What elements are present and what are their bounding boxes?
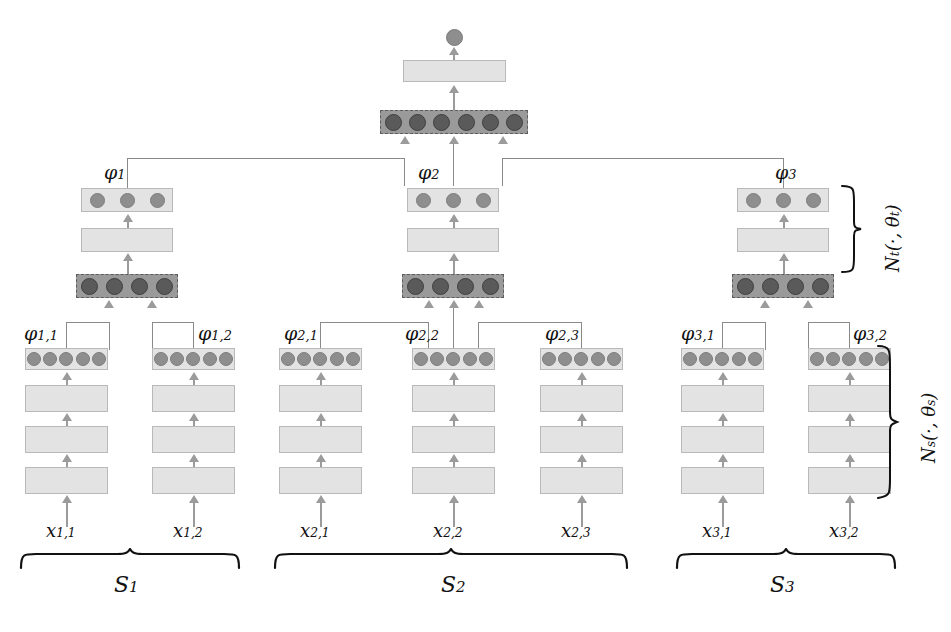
unit-dot bbox=[76, 352, 90, 366]
unit-dot bbox=[812, 278, 829, 295]
phi-sub: 2,3 bbox=[558, 328, 579, 343]
label-phi-1: φ1 bbox=[104, 161, 126, 183]
net-sub: t bbox=[888, 251, 902, 256]
unit-dot bbox=[120, 193, 135, 208]
connector-phi1-vertical-up bbox=[127, 158, 128, 188]
phi-sym: φ bbox=[418, 161, 431, 183]
unit-dot bbox=[43, 352, 57, 366]
connector-phi11-down bbox=[109, 322, 110, 350]
col2-hidden-3 bbox=[152, 385, 235, 412]
phi-sub: 2,1 bbox=[297, 328, 318, 343]
unit-dot bbox=[281, 352, 295, 366]
unit-dot bbox=[27, 352, 41, 366]
arrow-phi12-into-set1-pool bbox=[147, 300, 157, 308]
arrow-phi23-into-set2-pool bbox=[474, 300, 484, 308]
phi-sym: φ bbox=[24, 322, 37, 344]
net-args-end: ) bbox=[882, 204, 903, 211]
x-sub: 1,2 bbox=[183, 526, 202, 540]
unit-dot bbox=[203, 352, 217, 366]
set-sub: 2 bbox=[456, 578, 466, 596]
brace-set-3 bbox=[674, 548, 898, 570]
col4-hidden-2 bbox=[412, 426, 495, 453]
col6-hidden-2 bbox=[681, 426, 764, 453]
phi-sym: φ bbox=[775, 161, 788, 183]
connector-phi31-h bbox=[722, 322, 766, 323]
col2-hidden-1 bbox=[152, 467, 235, 494]
label-x-3-2: x3,2 bbox=[829, 520, 859, 541]
x-sym: x bbox=[829, 520, 839, 541]
label-phi-3-1: φ3,1 bbox=[681, 322, 715, 344]
x-sub: 3,2 bbox=[839, 526, 858, 540]
col4-hidden-3 bbox=[412, 385, 495, 412]
set2-pool-units bbox=[403, 275, 503, 297]
label-x-2-2: x2,2 bbox=[433, 520, 463, 541]
unit-dot bbox=[385, 114, 402, 131]
col3-hidden-1 bbox=[279, 467, 362, 494]
set-sym: S bbox=[114, 572, 129, 597]
col5-embedding-units bbox=[541, 349, 622, 369]
brace-bottom-network bbox=[874, 344, 900, 500]
unit-dot bbox=[776, 193, 791, 208]
unit-dot bbox=[482, 278, 499, 295]
unit-dot bbox=[59, 352, 73, 366]
arrow-phi32-into-set3-pool bbox=[803, 300, 813, 308]
brace-set-2 bbox=[272, 548, 630, 570]
set3-pool-units bbox=[733, 275, 833, 297]
unit-dot bbox=[81, 278, 98, 295]
label-phi-2: φ2 bbox=[418, 161, 440, 183]
set2-pool-layer bbox=[402, 274, 504, 298]
phi-sym: φ bbox=[405, 322, 418, 344]
connector-phi32-h bbox=[808, 322, 850, 323]
output-node bbox=[446, 29, 463, 46]
col6-embedding-units bbox=[682, 349, 763, 369]
unit-dot bbox=[446, 193, 461, 208]
phi-sub: 1,1 bbox=[37, 328, 58, 343]
label-phi-3: φ3 bbox=[775, 161, 797, 183]
phi-sub: 2 bbox=[431, 167, 439, 182]
unit-dot bbox=[810, 352, 824, 366]
label-phi-2-3: φ2,3 bbox=[545, 322, 579, 344]
unit-dot bbox=[479, 352, 493, 366]
set1-pool-units bbox=[77, 275, 177, 297]
set3-embedding-units bbox=[738, 189, 828, 211]
top-pool-layer bbox=[380, 110, 528, 134]
connector-phi12-down bbox=[152, 322, 153, 350]
label-x-2-3: x2,3 bbox=[561, 520, 591, 541]
unit-dot bbox=[407, 278, 424, 295]
set3-pool-layer bbox=[732, 274, 834, 298]
col5-hidden-2 bbox=[540, 426, 623, 453]
arrow-phi3-into-top-pool bbox=[498, 136, 508, 144]
connector-phi3-vertical-down bbox=[502, 158, 503, 186]
label-phi-2-1: φ2,1 bbox=[284, 322, 318, 344]
col1-hidden-3 bbox=[25, 385, 108, 412]
connector-phi2-vertical bbox=[453, 144, 454, 186]
unit-dot bbox=[186, 352, 200, 366]
unit-dot bbox=[458, 114, 475, 131]
net-args-sub: t bbox=[888, 211, 902, 216]
col2-embedding-layer bbox=[152, 348, 235, 370]
col4-embedding-units bbox=[413, 349, 494, 369]
label-x-3-1: x3,1 bbox=[702, 520, 732, 541]
set1-embedding-units bbox=[82, 189, 172, 211]
unit-dot bbox=[748, 352, 762, 366]
unit-dot bbox=[313, 352, 327, 366]
unit-dot bbox=[859, 352, 873, 366]
connector-phi11-h bbox=[66, 322, 110, 323]
phi-sub: 3,2 bbox=[866, 328, 887, 343]
unit-dot bbox=[170, 352, 184, 366]
x-sym: x bbox=[173, 520, 183, 541]
col6-embedding-layer bbox=[681, 348, 764, 370]
unit-dot bbox=[90, 193, 105, 208]
col1-hidden-1 bbox=[25, 467, 108, 494]
unit-dot bbox=[150, 193, 165, 208]
connector-phi23-down bbox=[478, 322, 479, 350]
unit-dot bbox=[542, 352, 556, 366]
figure-canvas: φ1 φ2 φ3 bbox=[0, 0, 951, 632]
unit-dot bbox=[430, 352, 444, 366]
set-sub: 3 bbox=[785, 578, 795, 596]
col1-hidden-2 bbox=[25, 426, 108, 453]
phi-sub: 2,2 bbox=[418, 328, 439, 343]
connector-phi3-horizontal bbox=[502, 158, 784, 159]
phi-sub: 1,2 bbox=[211, 328, 232, 343]
unit-dot bbox=[842, 352, 856, 366]
